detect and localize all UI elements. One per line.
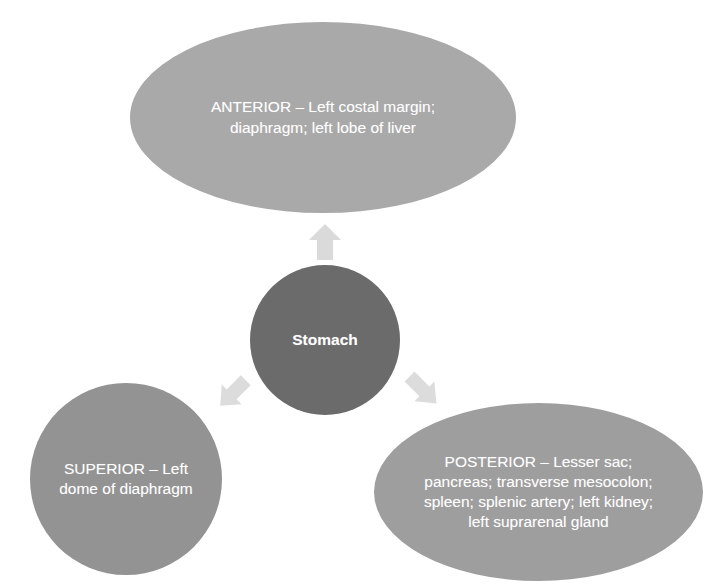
node-superior-label: SUPERIOR – Left dome of diaphragm: [30, 459, 222, 499]
diagram-canvas: ANTERIOR – Left costal margin; diaphragm…: [0, 0, 718, 584]
node-stomach-label: Stomach: [250, 330, 400, 350]
node-posterior-label: POSTERIOR – Lesser sac; pancreas; transv…: [374, 452, 703, 533]
node-stomach-center[interactable]: Stomach: [250, 265, 400, 415]
block-arrow-up-icon: [307, 222, 343, 262]
node-posterior[interactable]: POSTERIOR – Lesser sac; pancreas; transv…: [374, 403, 703, 581]
block-arrow-down-left-icon: [212, 372, 254, 414]
node-anterior-label: ANTERIOR – Left costal margin; diaphragm…: [130, 97, 516, 137]
block-arrow-down-right-icon: [401, 368, 445, 412]
node-anterior[interactable]: ANTERIOR – Left costal margin; diaphragm…: [130, 22, 516, 213]
node-superior[interactable]: SUPERIOR – Left dome of diaphragm: [30, 383, 222, 575]
